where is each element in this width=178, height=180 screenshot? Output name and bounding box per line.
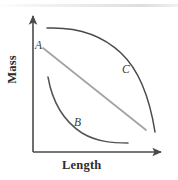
x-axis-label: Length bbox=[62, 158, 101, 173]
plot-area bbox=[0, 0, 178, 180]
curve-label-b: B bbox=[74, 116, 81, 128]
curve-label-c: C bbox=[122, 63, 130, 75]
curve-b-path bbox=[48, 77, 128, 143]
y-axis-label: Mass bbox=[5, 42, 20, 98]
curve-label-a: A bbox=[35, 39, 42, 51]
figure-panel: Mass Length A B C bbox=[0, 0, 178, 180]
line-a-path bbox=[43, 48, 146, 130]
